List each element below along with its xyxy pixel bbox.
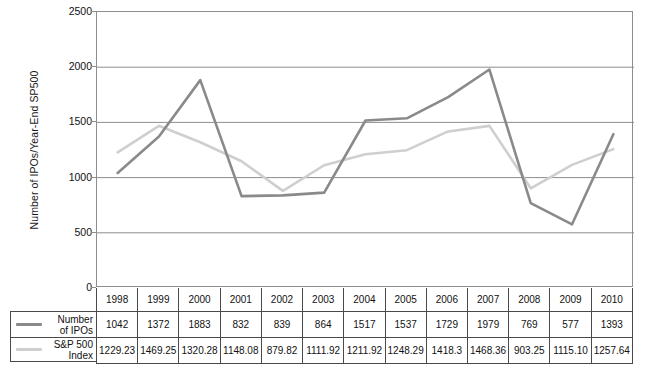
- table-cell-value: 1517: [344, 312, 385, 338]
- legend-swatch-icon-sp500: [16, 348, 42, 351]
- y-axis-tick-label: 1000: [46, 171, 92, 183]
- table-cell-year: 2007: [467, 288, 508, 312]
- table-cell-value: 1148.08: [220, 338, 261, 364]
- legend-item-sp500: S&P 500 Index: [11, 337, 97, 362]
- table-cell-value: 1469.25: [138, 338, 179, 364]
- table-row: 1229.231469.251320.281148.08879.821111.9…: [97, 338, 633, 364]
- table-cell-value: 1042: [97, 312, 138, 338]
- table-cell-value: 1229.23: [97, 338, 138, 364]
- table-cell-value: 1211.92: [344, 338, 385, 364]
- table-cell-value: 1393: [591, 312, 632, 338]
- chart-root: Number of IPOs/Year-End SP500 2500200015…: [0, 0, 654, 390]
- table-cell-value: 1115.10: [550, 338, 591, 364]
- table-cell-value: 879.82: [261, 338, 302, 364]
- y-axis-tick-mark: [91, 232, 96, 233]
- table-cell-value: 1537: [385, 312, 426, 338]
- table-cell-value: 1418.3: [426, 338, 467, 364]
- table-cell-year: 2000: [179, 288, 220, 312]
- y-axis-tick-label: 2500: [46, 5, 92, 17]
- table-row: 1042137218838328398641517153717291979769…: [97, 312, 633, 338]
- data-table-area: Number of IPOs S&P 500 Index 19981999200…: [0, 288, 654, 374]
- table-cell-value: 1257.64: [591, 338, 632, 364]
- y-axis-tick-label: 500: [46, 226, 92, 238]
- table-cell-year: 1998: [97, 288, 138, 312]
- table-cell-value: 1111.92: [303, 338, 344, 364]
- table-cell-value: 1468.36: [467, 338, 508, 364]
- table-cell-value: 1883: [179, 312, 220, 338]
- table-cell-value: 577: [550, 312, 591, 338]
- table-cell-year: 2004: [344, 288, 385, 312]
- legend-label-line2: of IPOs: [60, 325, 93, 336]
- y-axis-title: Number of IPOs/Year-End SP500: [28, 30, 40, 270]
- legend-label-sp500: S&P 500 Index: [42, 339, 97, 361]
- y-axis-tick-mark: [91, 11, 96, 12]
- table-cell-year: 2002: [261, 288, 302, 312]
- table-cell-value: 832: [220, 312, 261, 338]
- table-cell-value: 1372: [138, 312, 179, 338]
- legend: Number of IPOs S&P 500 Index: [10, 311, 97, 362]
- table-cell-value: 1729: [426, 312, 467, 338]
- plot-frame: [96, 11, 633, 287]
- table-cell-value: 839: [261, 312, 302, 338]
- table-row-years: 1998199920002001200220032004200520062007…: [97, 288, 633, 312]
- table-cell-value: 1320.28: [179, 338, 220, 364]
- table-cell-value: 1979: [467, 312, 508, 338]
- table-cell-year: 2005: [385, 288, 426, 312]
- y-axis-tick-label: 2000: [46, 60, 92, 72]
- legend-label-ipos: Number of IPOs: [42, 314, 97, 336]
- table-cell-year: 2008: [509, 288, 550, 312]
- legend-label-line1: Number: [57, 314, 93, 325]
- y-axis-tick-labels: 25002000150010005000: [44, 0, 92, 300]
- legend-label-line1: S&P 500: [54, 339, 93, 350]
- legend-item-ipos: Number of IPOs: [11, 312, 97, 338]
- series-line-sp500: [118, 126, 614, 191]
- table-cell-value: 864: [303, 312, 344, 338]
- legend-label-line2: Index: [69, 350, 93, 361]
- table-cell-value: 903.25: [509, 338, 550, 364]
- table-cell-value: 769: [509, 312, 550, 338]
- table-cell-year: 2010: [591, 288, 632, 312]
- series-line-ipos: [118, 70, 614, 225]
- data-table: 1998199920002001200220032004200520062007…: [96, 288, 633, 364]
- legend-swatch-icon-ipos: [16, 323, 42, 326]
- gridlines: [97, 67, 634, 233]
- table-cell-year: 2003: [303, 288, 344, 312]
- y-axis-tick-mark: [91, 66, 96, 67]
- table-cell-year: 1999: [138, 288, 179, 312]
- footer-faint-text: [330, 376, 654, 388]
- y-axis-tick-mark: [91, 121, 96, 122]
- table-cell-year: 2006: [426, 288, 467, 312]
- series-layer: [97, 12, 634, 288]
- table-cell-year: 2009: [550, 288, 591, 312]
- table-cell-year: 2001: [220, 288, 261, 312]
- y-axis-tick-mark: [91, 177, 96, 178]
- y-axis-tick-label: 1500: [46, 115, 92, 127]
- table-cell-value: 1248.29: [385, 338, 426, 364]
- plot-area: Number of IPOs/Year-End SP500 2500200015…: [0, 0, 654, 300]
